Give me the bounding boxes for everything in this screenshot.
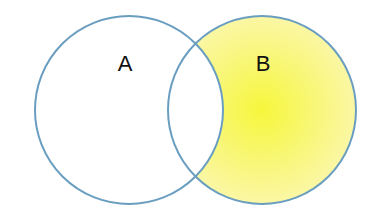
set-label-b: B xyxy=(256,51,271,76)
venn-diagram: A B xyxy=(0,0,374,215)
set-label-a: A xyxy=(118,51,133,76)
